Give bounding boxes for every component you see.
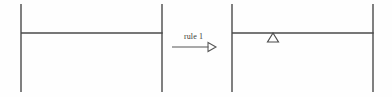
rule-arrowhead-icon [208,43,216,52]
rule-arrow [172,43,216,52]
triangle-marker-icon [268,33,279,42]
left-host-graph [21,4,163,92]
figure-canvas [0,0,392,97]
right-result-graph [232,4,374,92]
figure-root: rule 1 [0,0,392,97]
rule-arrow-label: rule 1 [184,33,203,41]
